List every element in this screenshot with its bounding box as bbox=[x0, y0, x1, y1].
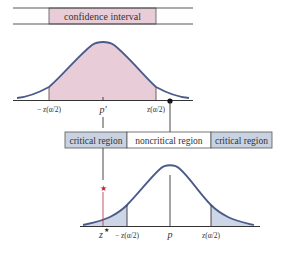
bottom-label-z-star: z bbox=[98, 229, 103, 240]
bottom-normal-curve bbox=[80, 165, 260, 226]
bottom-label-neg-z: − z(α/2) bbox=[115, 231, 140, 240]
region-band: critical region noncritical region criti… bbox=[65, 132, 272, 148]
critical-region-left-label: critical region bbox=[69, 136, 122, 146]
hypothesis-test-diagram: confidence interval − z(α/2) p′ z(α/2) c… bbox=[0, 0, 285, 258]
confidence-interval-band: confidence interval bbox=[13, 8, 193, 24]
top-normal-curve bbox=[13, 42, 193, 104]
top-label-p-prime: p′ bbox=[98, 104, 107, 115]
top-label-neg-z: − z(α/2) bbox=[37, 105, 62, 114]
bottom-axis-labels: z ★ − z(α/2) p z(α/2) bbox=[98, 227, 220, 240]
top-label-pos-z: z(α/2) bbox=[147, 105, 166, 114]
confidence-interval-label: confidence interval bbox=[64, 11, 141, 22]
z-star-marker: ★ bbox=[100, 148, 107, 226]
bottom-label-pos-z: z(α/2) bbox=[202, 231, 221, 240]
critical-region-right-label: critical region bbox=[215, 136, 268, 146]
star-superscript-icon: ★ bbox=[104, 227, 109, 233]
top-axis-labels: − z(α/2) p′ z(α/2) bbox=[37, 104, 166, 115]
noncritical-region-label: noncritical region bbox=[135, 136, 203, 146]
bottom-label-p: p bbox=[167, 229, 173, 240]
red-star-icon: ★ bbox=[100, 184, 107, 193]
